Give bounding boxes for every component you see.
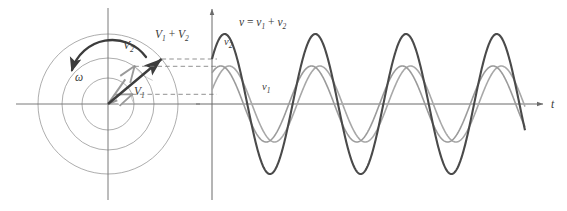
wave-v1-label: v1 [262, 81, 270, 95]
waveform-plot: t v = v1 + v2 v2 v1 [196, 9, 555, 200]
phasor-waveform-figure: ω V1 V2 V1 + V2 t [0, 0, 567, 211]
wave-sum-label: v = v1 + v2 [239, 16, 287, 31]
t-axis-label: t [551, 98, 555, 110]
v2-phasor-label: V2 [123, 39, 134, 54]
wave-v2-label: v2 [224, 36, 233, 50]
resultant-phasor-label: V1 + V2 [155, 28, 189, 43]
phasor-diagram: ω V1 V2 V1 + V2 [16, 8, 200, 200]
v1-phasor-label: V1 [134, 85, 145, 100]
figure-canvas: ω V1 V2 V1 + V2 t [0, 0, 567, 211]
omega-label: ω [75, 71, 83, 83]
